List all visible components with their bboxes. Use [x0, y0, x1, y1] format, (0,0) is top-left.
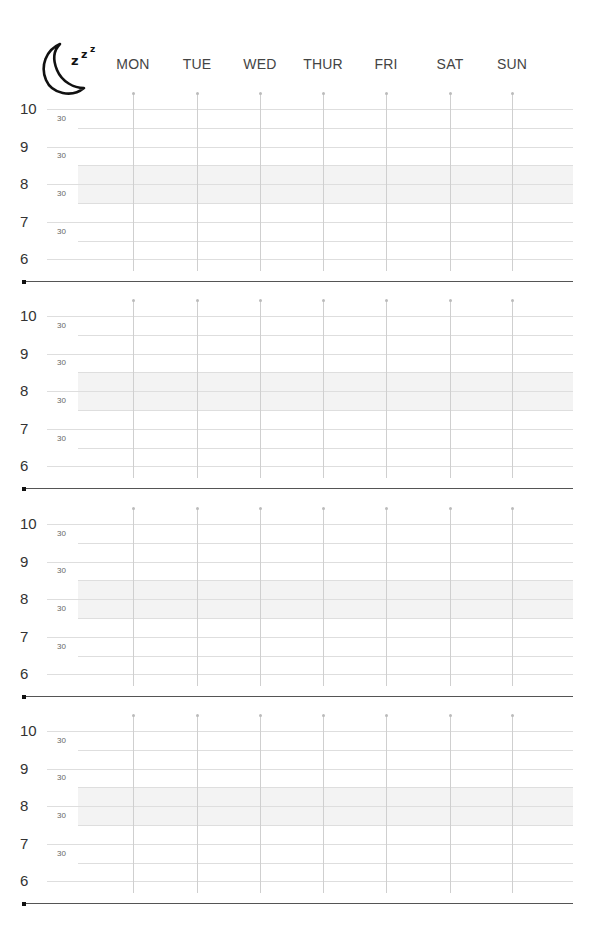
half-hour-gridline [78, 128, 573, 129]
column-top-marker [196, 92, 199, 95]
hour-label: 7 [20, 834, 28, 851]
hour-label: 9 [20, 759, 28, 776]
half-hour-label: 30 [57, 151, 66, 160]
column-top-marker [322, 92, 325, 95]
half-hour-gridline [78, 448, 573, 449]
hour-label: 6 [20, 457, 28, 474]
day-column-line-sat[interactable] [450, 300, 451, 478]
day-label-thur: THUR [303, 56, 343, 72]
column-top-marker [132, 92, 135, 95]
column-top-marker [449, 714, 452, 717]
column-top-marker [132, 299, 135, 302]
half-hour-gridline [78, 863, 573, 864]
column-top-marker [132, 714, 135, 717]
half-hour-gridline [78, 203, 573, 204]
day-column-line-mon[interactable] [133, 300, 134, 478]
day-column-line-sun[interactable] [512, 715, 513, 893]
day-column-line-sat[interactable] [450, 715, 451, 893]
day-column-line-fri[interactable] [386, 300, 387, 478]
column-top-marker [196, 714, 199, 717]
week-separator-rule [24, 696, 573, 697]
week-block-2: 10309308307306 [0, 300, 600, 507]
day-column-line-fri[interactable] [386, 715, 387, 893]
hour-gridline [47, 562, 573, 563]
day-column-line-tue[interactable] [197, 508, 198, 686]
day-column-line-fri[interactable] [386, 93, 387, 271]
svg-text:z: z [81, 48, 87, 61]
day-column-line-thur[interactable] [323, 93, 324, 271]
hour-label: 6 [20, 665, 28, 682]
day-column-line-tue[interactable] [197, 715, 198, 893]
half-hour-gridline [78, 335, 573, 336]
hour-gridline [47, 316, 573, 317]
sleep-moon-zzz-icon: z z z [38, 38, 110, 98]
day-column-line-tue[interactable] [197, 300, 198, 478]
day-column-line-wed[interactable] [260, 300, 261, 478]
half-hour-gridline [78, 618, 573, 619]
column-top-marker [322, 714, 325, 717]
half-hour-label: 30 [57, 811, 66, 820]
week-separator-rule [24, 488, 573, 489]
hour-label: 7 [20, 627, 28, 644]
day-column-line-wed[interactable] [260, 93, 261, 271]
day-label-sun: SUN [497, 56, 527, 72]
day-label-tue: TUE [183, 56, 212, 72]
half-hour-label: 30 [57, 226, 66, 235]
hour-label: 7 [20, 212, 28, 229]
hour-gridline [47, 769, 573, 770]
svg-text:z: z [90, 44, 95, 54]
day-column-line-wed[interactable] [260, 508, 261, 686]
day-column-line-sat[interactable] [450, 508, 451, 686]
svg-text:z: z [71, 53, 79, 68]
hour-gridline [47, 429, 573, 430]
half-hour-label: 30 [57, 113, 66, 122]
half-hour-label: 30 [57, 433, 66, 442]
half-hour-gridline [78, 165, 573, 166]
day-column-line-tue[interactable] [197, 93, 198, 271]
hour-gridline [47, 147, 573, 148]
column-top-marker [385, 714, 388, 717]
day-column-line-mon[interactable] [133, 508, 134, 686]
column-top-marker [259, 507, 262, 510]
column-top-marker [385, 92, 388, 95]
hour-gridline [47, 637, 573, 638]
hour-label: 10 [20, 515, 37, 532]
hour-label: 10 [20, 100, 37, 117]
day-column-line-mon[interactable] [133, 715, 134, 893]
hour-label: 6 [20, 250, 28, 267]
day-column-line-sun[interactable] [512, 93, 513, 271]
hour-gridline [47, 184, 573, 185]
column-top-marker [322, 507, 325, 510]
week-block-4: 10309308307306 [0, 715, 600, 922]
column-top-marker [259, 92, 262, 95]
hour-label: 9 [20, 137, 28, 154]
hour-gridline [47, 599, 573, 600]
column-top-marker [196, 507, 199, 510]
column-top-marker [449, 507, 452, 510]
hour-gridline [47, 806, 573, 807]
column-top-marker [385, 299, 388, 302]
day-column-line-sun[interactable] [512, 508, 513, 686]
day-column-line-thur[interactable] [323, 300, 324, 478]
week-block-3: 10309308307306 [0, 508, 600, 715]
hour-label: 10 [20, 307, 37, 324]
day-column-line-thur[interactable] [323, 715, 324, 893]
hour-label: 6 [20, 872, 28, 889]
half-hour-gridline [78, 372, 573, 373]
column-top-marker [449, 92, 452, 95]
hour-label: 7 [20, 419, 28, 436]
hour-label: 8 [20, 590, 28, 607]
day-column-line-sun[interactable] [512, 300, 513, 478]
day-column-line-wed[interactable] [260, 715, 261, 893]
day-column-line-fri[interactable] [386, 508, 387, 686]
rule-end-dot [22, 902, 26, 906]
half-hour-label: 30 [57, 320, 66, 329]
day-column-line-sat[interactable] [450, 93, 451, 271]
column-top-marker [511, 92, 514, 95]
half-hour-gridline [78, 410, 573, 411]
day-column-line-mon[interactable] [133, 93, 134, 271]
column-top-marker [322, 299, 325, 302]
half-hour-label: 30 [57, 528, 66, 537]
hour-label: 8 [20, 175, 28, 192]
day-column-line-thur[interactable] [323, 508, 324, 686]
